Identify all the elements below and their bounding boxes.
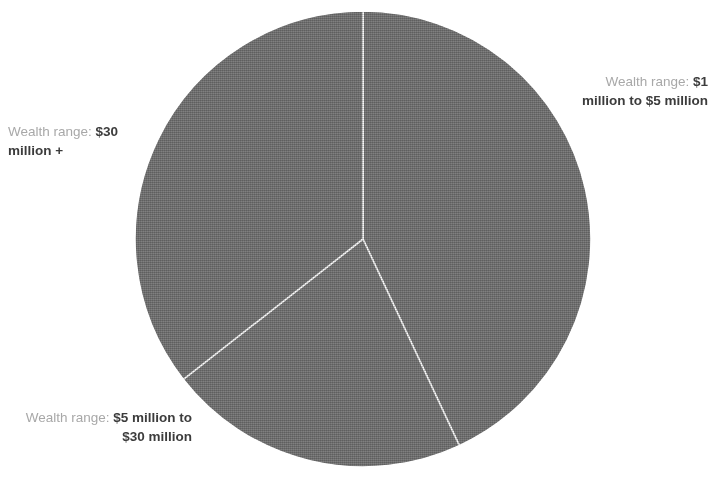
pie-label-30m-plus: Wealth range: $30 million + bbox=[8, 122, 140, 160]
pie-label-1m-to-5m: Wealth range: $1 million to $5 million bbox=[572, 72, 708, 110]
pie-label-lead: Wealth range: bbox=[8, 124, 92, 139]
pie-label-5m-to-30m: Wealth range: $5 million to $30 million bbox=[6, 408, 192, 446]
pie-label-lead: Wealth range: bbox=[26, 410, 110, 425]
pie-label-lead: Wealth range: bbox=[605, 74, 689, 89]
pie-slice-group bbox=[135, 11, 591, 467]
pie-label-value: $5 million to $30 million bbox=[113, 410, 192, 444]
chart-canvas: Wealth range: $1 million to $5 million W… bbox=[0, 0, 718, 491]
